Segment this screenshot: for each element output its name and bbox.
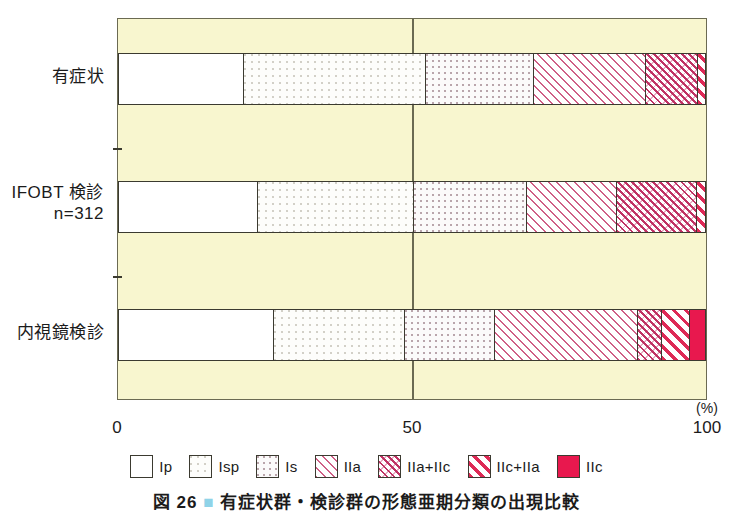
segment-is[interactable] <box>425 54 533 104</box>
legend-label-iia: IIa <box>344 458 362 475</box>
legend-label-iic-iia: IIc+IIa <box>497 458 540 475</box>
segment-isp[interactable] <box>273 310 405 360</box>
legend-item-iic-iia[interactable]: IIc+IIa <box>468 455 540 478</box>
figure-caption: 図 26 ■ 有症状群・検診群の形態亜期分類の出現比較 <box>0 488 733 512</box>
caption-marker-icon: ■ <box>203 493 214 512</box>
x-tick-label-50: 50 <box>403 418 422 438</box>
category-label-text: 有症状 <box>52 67 105 86</box>
segment-iic[interactable] <box>689 310 705 360</box>
stacked-bar <box>118 309 706 361</box>
legend-label-isp: Isp <box>218 458 239 475</box>
legend-item-iia[interactable]: IIa <box>315 455 362 478</box>
legend-swatch-iia <box>315 455 338 478</box>
legend-swatch-is <box>256 455 279 478</box>
legend-item-iia-iic[interactable]: IIa+IIc <box>378 455 450 478</box>
legend-label-is: Is <box>285 458 297 475</box>
legend-swatch-iic-iia <box>468 455 491 478</box>
segment-iia[interactable] <box>533 54 646 104</box>
category-label-2: 内視鏡検診 <box>0 322 104 343</box>
legend-swatch-ip <box>130 455 153 478</box>
category-label-text: 内視鏡検診 <box>17 323 105 342</box>
segment-iia-iic[interactable] <box>616 182 696 232</box>
legend-item-iic[interactable]: IIc <box>557 455 603 478</box>
category-label-0: 有症状 <box>0 66 104 87</box>
x-axis-unit-label: (%) <box>696 400 718 416</box>
bar-row-1 <box>118 181 706 233</box>
segment-iic-iia[interactable] <box>697 54 706 104</box>
segment-is[interactable] <box>404 310 494 360</box>
legend-label-iic: IIc <box>586 458 603 475</box>
category-label-1: IFOBT 検診 n=312 <box>0 182 104 225</box>
segment-isp[interactable] <box>257 182 412 232</box>
segment-iic-iia[interactable] <box>661 310 690 360</box>
segment-ip[interactable] <box>118 310 273 360</box>
legend-item-is[interactable]: Is <box>256 455 297 478</box>
segment-iia[interactable] <box>526 182 616 232</box>
stacked-bar <box>118 53 706 105</box>
legend-item-ip[interactable]: Ip <box>130 455 172 478</box>
stacked-bar <box>118 181 706 233</box>
legend-swatch-iic <box>557 455 580 478</box>
legend-label-iia-iic: IIa+IIc <box>407 458 450 475</box>
segment-ip[interactable] <box>118 54 243 104</box>
segment-iia[interactable] <box>494 310 636 360</box>
legend-swatch-isp <box>189 455 212 478</box>
segment-isp[interactable] <box>243 54 425 104</box>
segment-iic-iia[interactable] <box>696 182 706 232</box>
segment-is[interactable] <box>413 182 526 232</box>
segment-iia-iic[interactable] <box>637 310 661 360</box>
segment-ip[interactable] <box>118 182 257 232</box>
axis-tick-minor <box>113 276 122 278</box>
x-axis: 0 50 100 (%) <box>0 404 733 438</box>
legend-swatch-iia-iic <box>378 455 401 478</box>
category-label-subtext: n=312 <box>0 203 104 224</box>
legend: Ip Isp Is IIa IIa+IIc IIc+IIa IIc <box>0 448 733 484</box>
caption-prefix: 図 26 <box>153 493 198 512</box>
segment-iia-iic[interactable] <box>645 54 697 104</box>
bar-row-0 <box>118 53 706 105</box>
category-label-text: IFOBT 検診 <box>12 183 104 202</box>
axis-tick-minor <box>113 148 122 150</box>
figure-container: 有症状 IFOBT 検診 n=312 内視鏡検診 0 50 100 (%) Ip… <box>0 0 733 512</box>
bar-row-2 <box>118 309 706 361</box>
legend-label-ip: Ip <box>159 458 172 475</box>
x-tick-label-0: 0 <box>112 418 121 438</box>
plot-area <box>117 18 707 400</box>
legend-item-isp[interactable]: Isp <box>189 455 239 478</box>
caption-text: 有症状群・検診群の形態亜期分類の出現比較 <box>220 493 580 512</box>
x-tick-label-100: 100 <box>693 418 721 438</box>
